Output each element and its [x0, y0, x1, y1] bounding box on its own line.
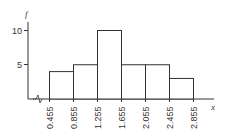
x-tick-label: 1.255 [93, 106, 103, 129]
histogram-bar [122, 65, 146, 99]
histogram-bar [170, 78, 194, 99]
bars [50, 31, 194, 100]
y-axis-label: f [25, 9, 29, 19]
histogram-chart: 10 5 f x 0.4550.8551.2551.6552.0552.4552… [0, 0, 230, 134]
histogram-bar [146, 65, 170, 99]
x-tick-label: 0.855 [69, 106, 79, 129]
histogram-bar [50, 72, 74, 99]
x-tick-label: 0.455 [45, 106, 55, 129]
x-tick-labels: 0.4550.8551.2551.6552.0552.4552.855 [45, 99, 199, 129]
x-tick-label: 2.855 [189, 106, 199, 129]
histogram-bar [74, 65, 98, 99]
y-tick-label-5: 5 [17, 60, 22, 70]
x-tick-label: 2.055 [141, 106, 151, 129]
x-tick-label: 2.455 [165, 106, 175, 129]
x-tick-label: 1.655 [117, 106, 127, 129]
histogram-bar [98, 31, 122, 100]
x-axis-label: x [210, 102, 215, 112]
y-tick-label-10: 10 [12, 26, 22, 36]
